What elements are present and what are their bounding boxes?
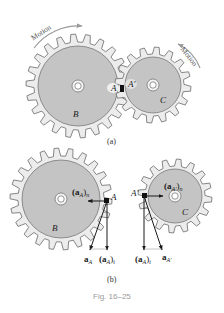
panel-b-caption: (b) [107, 275, 116, 284]
label-a-tangential-right: (aA)t [135, 255, 151, 265]
gear-b-b [10, 148, 112, 250]
point-a-prime-label-b: A' [131, 189, 138, 198]
gear-c-label-b: C [182, 208, 188, 217]
point-a-label-b: A [111, 193, 117, 202]
gear-diagram [0, 0, 224, 313]
point-a-label-a: A [111, 84, 117, 93]
label-a-normal-right: (aA')n [164, 182, 182, 192]
label-a-tangential-left: (aA)t [99, 255, 115, 265]
gear-b-label-a: B [73, 110, 79, 119]
label-a-total-left: aA [84, 255, 92, 265]
figure-caption: Fig. 16–25 [93, 292, 131, 301]
contact-point [120, 85, 124, 92]
point-a-prime-label-a: A' [128, 80, 135, 89]
panel-a-caption: (a) [107, 137, 116, 146]
label-a-normal-left: (aA)n [72, 188, 89, 198]
gear-b-label-b: B [52, 224, 58, 233]
gear-c-label-a: C [160, 96, 166, 105]
label-a-total-right: aA' [162, 253, 171, 263]
